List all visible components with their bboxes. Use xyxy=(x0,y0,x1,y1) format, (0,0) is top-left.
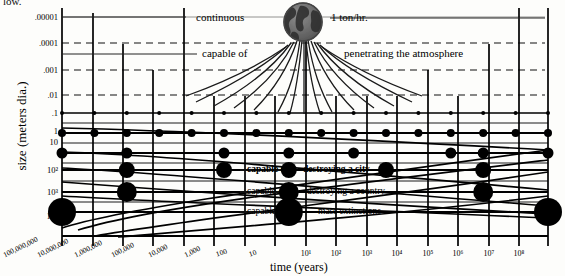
impact-dot xyxy=(481,111,485,115)
chart-canvas xyxy=(0,0,565,276)
x-tick-label: 10¹ xyxy=(291,250,321,258)
impact-dot xyxy=(219,148,230,159)
impact-dot xyxy=(121,148,132,159)
annotation-capable-of-country: capable of xyxy=(247,187,286,197)
x-tick-label: 10² xyxy=(321,250,351,258)
impact-dot xyxy=(449,111,453,115)
impact-dot xyxy=(252,129,260,137)
impact-dot xyxy=(319,111,323,115)
impact-dot xyxy=(416,111,420,115)
annotation-destroying-a-country: destroying a country xyxy=(307,187,385,197)
impact-dot xyxy=(90,129,98,137)
annotation-destroying-a-city: destroying a city xyxy=(303,165,370,175)
y-tick-label: .0001 xyxy=(6,39,58,48)
x-tick-label: 10⁶ xyxy=(443,250,473,258)
impact-dot xyxy=(155,129,163,137)
annotation-capable-of-penetrating: capable of xyxy=(202,48,248,59)
impact-dot xyxy=(119,162,135,178)
impact-dot xyxy=(512,129,520,137)
impact-dot xyxy=(348,148,359,159)
impact-dot xyxy=(378,162,394,178)
x-tick-label: 10⁸ xyxy=(504,250,534,258)
impact-dot xyxy=(514,111,518,115)
impact-dot xyxy=(544,129,552,137)
x-tick-label: 10³ xyxy=(352,250,382,258)
impact-dot xyxy=(445,148,456,159)
impact-dot xyxy=(447,129,455,137)
impact-dot xyxy=(473,182,493,202)
impact-dot xyxy=(123,129,131,137)
impact-dot xyxy=(220,129,228,137)
impact-dot xyxy=(414,129,422,137)
impact-dot xyxy=(534,198,562,226)
impact-dot xyxy=(57,148,68,159)
impact-dot xyxy=(58,129,66,137)
impact-dot xyxy=(254,111,258,115)
solid-gridlines xyxy=(62,113,548,236)
x-tick-label: 10⁷ xyxy=(474,250,504,258)
impact-dot xyxy=(222,111,226,115)
annotation-mass-extinctions: mass extinctions xyxy=(318,207,381,217)
impact-dot xyxy=(216,162,232,178)
impact-dot xyxy=(384,111,388,115)
impact-dot xyxy=(283,148,294,159)
annotation-continuous: continuous xyxy=(196,12,244,23)
earth-globe-icon xyxy=(279,3,325,43)
y-tick-label: .00001 xyxy=(6,13,58,22)
impact-dot xyxy=(475,162,491,178)
impact-dot xyxy=(546,111,550,115)
impact-dot xyxy=(188,129,196,137)
impact-dot xyxy=(125,111,129,115)
impact-dot xyxy=(157,111,161,115)
impact-dot xyxy=(285,129,293,137)
impact-dot xyxy=(350,129,358,137)
frequency-curves xyxy=(62,128,548,237)
annotation-capable-of-extinctions: capable of xyxy=(247,207,286,217)
impact-dot xyxy=(352,111,356,115)
x-axis-title: time (years) xyxy=(270,261,328,273)
impact-dot xyxy=(117,182,137,202)
impact-dot xyxy=(92,111,96,115)
x-tick-label: 10 xyxy=(248,249,257,258)
impact-dot xyxy=(478,148,489,159)
impact-dot xyxy=(190,111,194,115)
impact-dot xyxy=(317,129,325,137)
y-axis-title: size (meters dia.) xyxy=(14,56,30,196)
impact-dot xyxy=(543,148,554,159)
y-tick-label: 10⁴ xyxy=(6,212,58,221)
annotation-one-ton-per-hour: 1 ton/hr. xyxy=(331,12,368,23)
impact-frequency-chart: low. xyxy=(0,0,565,276)
impact-dot xyxy=(287,111,291,115)
impact-dot xyxy=(479,129,487,137)
x-tick-label: 10⁵ xyxy=(413,250,443,258)
impact-dot xyxy=(382,129,390,137)
impact-dot xyxy=(60,111,64,115)
annotation-penetrating-atmosphere: penetrating the atmosphere xyxy=(344,48,463,59)
x-tick-label: 10⁴ xyxy=(382,250,412,258)
annotation-capable-of-city: capable of xyxy=(247,165,288,175)
